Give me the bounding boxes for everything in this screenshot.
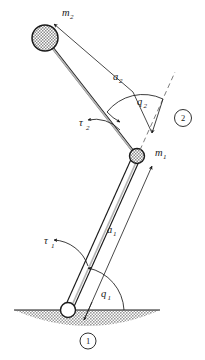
label-m1-base: m	[155, 147, 163, 158]
label-a2-base: a	[113, 71, 118, 82]
label-tau1-sub: 1	[51, 242, 55, 250]
diagram-canvas: 2 1 m 2 m 1 a 2 a 1 q 2 q 1	[0, 0, 205, 360]
frame-marker-1: 1	[80, 333, 96, 349]
robot-manipulator-figure: 2 1 m 2 m 1 a 2 a 1 q 2 q 1	[0, 0, 205, 360]
frame-marker-2-label: 2	[181, 113, 185, 123]
label-m2: m 2	[62, 7, 74, 21]
label-m1-sub: 1	[163, 153, 167, 161]
label-tau2: τ 2	[79, 117, 90, 132]
link-2	[43, 34, 139, 159]
angle-q2-arc-end-arrow	[152, 99, 163, 133]
joint-m1-body	[130, 149, 145, 164]
label-m2-sub: 2	[70, 13, 74, 21]
link-2-rail-upper	[43, 34, 135, 152]
label-q1: q 1	[101, 288, 111, 302]
label-q2-sub: 2	[144, 102, 148, 110]
label-q1-base: q	[101, 288, 106, 299]
link-1-extension-dashed-reference	[140, 72, 175, 150]
label-m1: m 1	[155, 147, 167, 161]
label-a1-base: a	[107, 224, 112, 235]
label-tau1: τ 1	[44, 235, 55, 250]
mass-m2-body	[32, 25, 58, 51]
label-a1-sub: 1	[113, 230, 117, 238]
label-tau2-sub: 2	[86, 124, 90, 132]
label-a2-sub: 2	[119, 77, 123, 85]
label-tau2-base: τ	[79, 117, 84, 128]
frame-marker-1-label: 1	[86, 336, 90, 346]
base-pivot-joint	[61, 303, 76, 318]
label-a1: a 1	[107, 224, 117, 238]
length-a2-dimension-arrow	[133, 92, 152, 133]
label-q2-base: q	[137, 96, 142, 107]
label-a2: a 2	[113, 71, 123, 85]
frame-marker-2: 2	[175, 110, 192, 127]
torque-tau1-arc	[54, 240, 88, 266]
label-tau1-base: τ	[44, 235, 49, 246]
label-q2: q 2	[137, 96, 148, 110]
label-m2-base: m	[62, 7, 70, 18]
label-q1-sub: 1	[108, 294, 112, 302]
